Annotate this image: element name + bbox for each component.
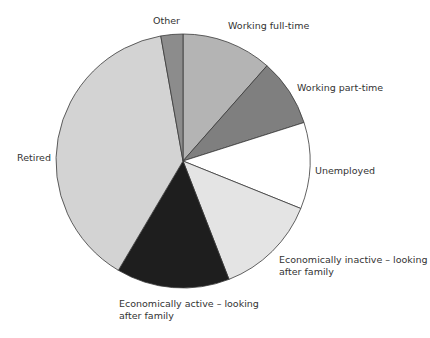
label-other: Other	[153, 15, 180, 27]
label-line: after family	[119, 310, 259, 322]
label-line: Economically inactive – looking	[279, 254, 428, 266]
label-unemployed: Unemployed	[315, 165, 375, 177]
label-economically-inactive: Economically inactive – looking after fa…	[279, 254, 428, 278]
label-retired: Retired	[17, 152, 51, 164]
label-line: Economically active – looking	[119, 298, 259, 310]
label-working-full-time: Working full-time	[228, 20, 309, 32]
label-line: after family	[279, 266, 428, 278]
label-working-part-time: Working part-time	[297, 82, 383, 94]
label-economically-active: Economically active – looking after fami…	[119, 298, 259, 322]
